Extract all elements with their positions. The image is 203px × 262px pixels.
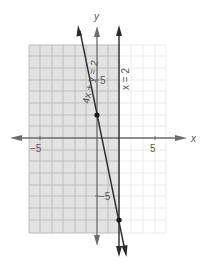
point-2-neg6 [116,217,121,222]
y-axis-down-arrow-icon [94,235,100,246]
x-axis-label: x [190,133,197,144]
y-axis-label: y [93,11,100,22]
line1-up-arrow-icon [77,25,83,37]
point-0-2 [94,112,99,117]
y-tick-label-neg5: −5 [99,191,111,202]
graph: x y −5 5 5 −5 4x + y = 2 x = 2 [0,0,203,262]
line2-up-arrow-icon [116,25,122,36]
x-axis-right-arrow-icon [175,135,187,141]
x-tick-label-neg5: −5 [30,143,42,154]
line2-equation-label: x = 2 [120,68,131,90]
line2-down-arrow-icon [116,246,122,257]
x-axis-left-arrow-icon [10,135,22,141]
y-tick-label-pos5: 5 [100,75,106,86]
y-axis-up-arrow-icon [94,26,100,37]
line1-down-arrow-icon [122,245,128,257]
x-tick-label-pos5: 5 [150,143,156,154]
